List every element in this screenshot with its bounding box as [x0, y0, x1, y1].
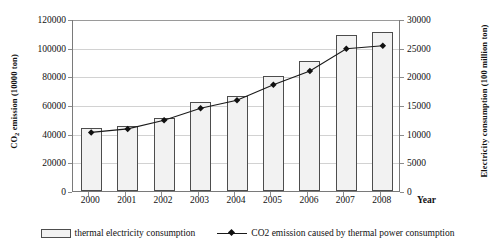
- y-axis-left-tick-label: 20000: [14, 158, 66, 168]
- x-axis-tick-label: 2003: [180, 195, 220, 206]
- y-axis-right-tickmark: [400, 192, 404, 193]
- x-axis-tickmark: [343, 192, 344, 196]
- line-marker: [343, 45, 350, 52]
- line-marker: [88, 129, 95, 136]
- y-axis-left-tick-label: 100000: [14, 44, 66, 54]
- x-axis-tickmark: [380, 192, 381, 196]
- x-axis-tickmark: [307, 192, 308, 196]
- x-axis-tickmark: [270, 192, 271, 196]
- y-axis-right-tick-label: 25000: [407, 44, 459, 54]
- x-axis-tick-label: 2000: [70, 195, 110, 206]
- y-axis-left-tick-label: 120000: [14, 15, 66, 25]
- y-axis-left-tick-label: 80000: [14, 72, 66, 82]
- x-axis-tickmark: [125, 192, 126, 196]
- y-axis-left-tick-label: 40000: [14, 130, 66, 140]
- legend-bar-label: thermal electricity consumption: [75, 228, 196, 238]
- line-series: [73, 20, 401, 192]
- line-marker: [307, 68, 314, 75]
- line-marker: [380, 43, 387, 50]
- line-marker: [270, 82, 277, 89]
- x-axis-tick-label: 2008: [362, 195, 402, 206]
- line-path: [91, 46, 383, 133]
- y-axis-left-title-post: emission (10000 ton): [9, 54, 19, 132]
- plot-area: [72, 20, 400, 192]
- line-markers: [88, 43, 386, 136]
- y-axis-right-tick-label: 30000: [407, 15, 459, 25]
- y-axis-right-tick-label: 15000: [407, 101, 459, 111]
- x-axis-tick-label: 2002: [143, 195, 183, 206]
- line-marker: [234, 97, 241, 104]
- line-marker: [161, 117, 168, 124]
- x-axis-tickmark: [234, 192, 235, 196]
- x-axis-tick-label: 2007: [325, 195, 365, 206]
- y-axis-left-tick-label: 60000: [14, 101, 66, 111]
- x-axis-tick-label: 2004: [216, 195, 256, 206]
- legend-item-line: CO2 emission caused by thermal power con…: [217, 228, 454, 238]
- x-axis-tickmark: [198, 192, 199, 196]
- chart-figure: CO2 emission (10000 ton) Electricity con…: [0, 0, 495, 250]
- x-axis-tick-label: 2006: [289, 195, 329, 206]
- legend-item-bar: thermal electricity consumption: [41, 228, 196, 238]
- y-axis-right-tick-label: 10000: [407, 130, 459, 140]
- x-axis-title: Year: [417, 195, 436, 205]
- y-axis-right-title: Electricity consumption (100 million ton…: [479, 16, 489, 186]
- y-axis-right-tick-label: 5000: [407, 158, 459, 168]
- legend-line-marker-icon: [217, 229, 247, 238]
- x-axis-tickmark: [161, 192, 162, 196]
- y-axis-right-tick-label: 20000: [407, 72, 459, 82]
- x-axis-tickmark: [88, 192, 89, 196]
- y-axis-left-tick-label: 0: [14, 187, 66, 197]
- x-axis-tick-label: 2005: [252, 195, 292, 206]
- legend-line-label: CO2 emission caused by thermal power con…: [251, 228, 454, 238]
- line-marker: [124, 126, 131, 133]
- chart-legend: thermal electricity consumption CO2 emis…: [0, 228, 495, 238]
- line-marker: [197, 105, 204, 112]
- x-axis-tick-label: 2001: [107, 195, 147, 206]
- legend-bar-swatch-icon: [41, 229, 71, 238]
- y-axis-left-tickmark: [68, 192, 72, 193]
